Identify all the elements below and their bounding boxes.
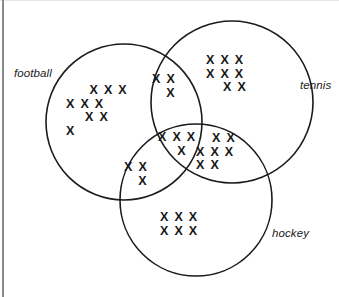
tally-row: X xyxy=(124,175,162,189)
tally-row: X X X xyxy=(66,84,128,98)
tally-row: X X xyxy=(196,159,252,173)
tally-row: X X X xyxy=(206,68,264,82)
tally-row: X xyxy=(66,125,128,139)
tally-group-tennis_only: X X XX X XX X xyxy=(206,54,264,95)
tally-row: X X X xyxy=(160,211,212,225)
tally-row: X X xyxy=(152,73,190,87)
tally-row: X X xyxy=(124,161,162,175)
set-label-hockey: hockey xyxy=(272,227,309,239)
tally-row: X X xyxy=(206,81,264,95)
tally-group-football_only: X X XX X XX XX xyxy=(66,84,128,138)
tally-group-football_hockey: X XX xyxy=(124,161,162,188)
tally-group-hockey_only: X X XX X X xyxy=(160,211,212,238)
tally-row: X X X xyxy=(160,225,212,239)
tally-group-tennis_hockey: X XX X XX X xyxy=(196,132,252,173)
tally-row: X X X xyxy=(196,146,252,160)
tally-group-football_tennis: X XX xyxy=(152,73,190,100)
set-label-football: football xyxy=(14,67,52,79)
tally-row: X X xyxy=(66,111,128,125)
tally-row: X X X xyxy=(66,98,128,112)
venn-diagram-canvas: football tennis hockey X X XX X XX XXX X… xyxy=(0,0,339,297)
tally-row: X X X xyxy=(206,54,264,68)
tally-row: X xyxy=(152,87,190,101)
set-label-tennis: tennis xyxy=(300,79,331,91)
tally-row: X X xyxy=(196,132,252,146)
